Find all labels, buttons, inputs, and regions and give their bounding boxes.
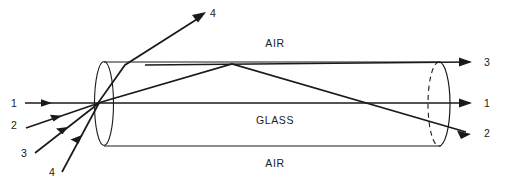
cylinder-right-face-front <box>439 62 450 146</box>
outgoing-ray-3-arrowhead <box>459 58 472 67</box>
diagram-canvas: AIR GLASS AIR 1 2 3 4 1 3 2 4 <box>0 0 507 181</box>
incoming-ray-label-3: 3 <box>21 147 27 159</box>
incoming-ray-1-arrowhead <box>41 99 52 107</box>
outgoing-ray-label-2: 2 <box>484 127 490 139</box>
incoming-ray-3 <box>35 103 99 153</box>
outgoing-ray-label-3: 3 <box>484 56 490 68</box>
outgoing-ray-1 <box>98 99 472 108</box>
label-air-bottom: AIR <box>265 157 284 169</box>
label-glass: GLASS <box>256 114 294 126</box>
outgoing-ray-4 <box>98 12 206 103</box>
outgoing-ray-label-1: 1 <box>484 97 490 109</box>
incoming-ray-label-4: 4 <box>49 166 55 178</box>
outgoing-ray-1-arrowhead <box>459 99 472 108</box>
label-air-top: AIR <box>265 37 284 49</box>
outgoing-ray-label-4: 4 <box>210 7 216 19</box>
incoming-ray-2-arrowhead <box>50 115 62 122</box>
optical-fiber-diagram: AIR GLASS AIR 1 2 3 4 1 3 2 4 <box>0 0 507 181</box>
outgoing-ray-4-line <box>98 16 202 103</box>
incoming-ray-label-1: 1 <box>11 97 17 109</box>
outgoing-ray-2 <box>98 64 471 139</box>
cylinder-right-face-back <box>428 62 439 146</box>
incoming-ray-label-2: 2 <box>11 119 17 131</box>
incoming-ray-3-arrowhead <box>56 127 68 134</box>
